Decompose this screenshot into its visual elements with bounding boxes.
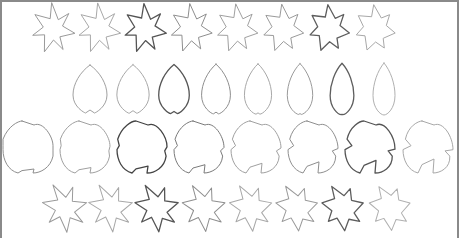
leaf-outline [269, 177, 325, 236]
leaf-outline [231, 121, 281, 173]
leaf-outline [330, 63, 354, 114]
leaf-outline [73, 65, 107, 113]
leaf-outline [264, 5, 304, 51]
leaf-outline [310, 5, 349, 51]
leaf-outline [79, 3, 121, 51]
heart-lobed-row [3, 121, 453, 173]
leaf-outline [174, 121, 224, 173]
leaf-outline [202, 64, 231, 114]
leaf-outline [244, 64, 271, 114]
leaf-morph-figure [0, 0, 459, 238]
leaf-outline [218, 4, 258, 51]
leaf-outline [363, 178, 417, 235]
leaf-outline [223, 177, 279, 236]
leaf-outline [125, 4, 166, 52]
maple-row-bottom [36, 175, 418, 237]
leaf-outline [287, 64, 312, 115]
leaf-outline [36, 175, 95, 237]
leaf-outline [82, 176, 140, 237]
leaf-outline [176, 176, 233, 236]
leaf-outline [33, 3, 75, 52]
leaf-outline [373, 63, 395, 115]
leaf-outline [356, 5, 395, 50]
leaf-outline [316, 177, 371, 235]
leaf-outline [403, 121, 453, 173]
leaf-outline [171, 4, 212, 51]
ovate-row [73, 63, 395, 115]
leaf-outline [117, 65, 149, 114]
leaf-outline [3, 121, 53, 173]
maple-row-top [33, 3, 395, 52]
leaf-outline [288, 121, 338, 173]
leaf-outline [159, 64, 190, 113]
leaf-outline [345, 121, 395, 173]
leaf-outline [117, 121, 167, 173]
leaf-outline [128, 176, 185, 237]
leaf-outline [60, 121, 110, 173]
